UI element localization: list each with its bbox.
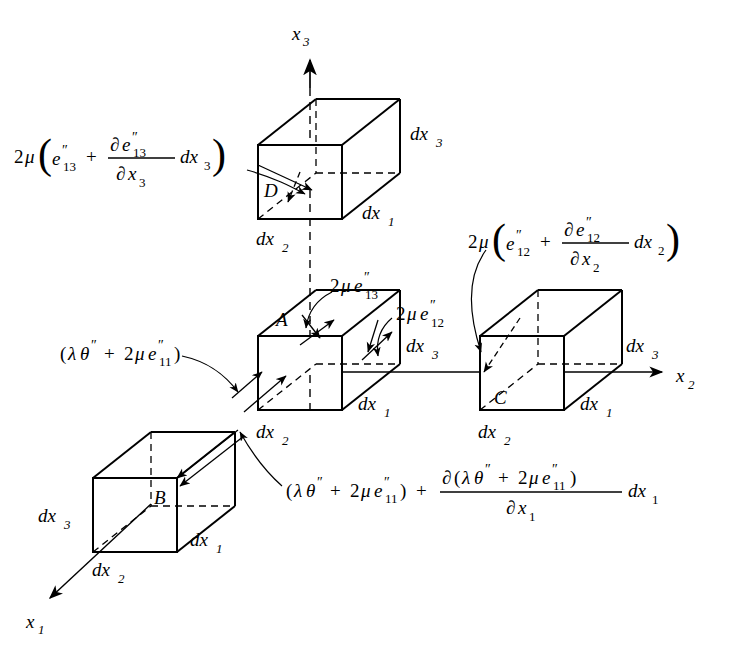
- f1-num-d: ∂: [110, 134, 119, 155]
- f1-num-primes: ″: [132, 130, 138, 145]
- cube-D-edge-dx3-base: dx: [410, 123, 429, 144]
- x1-axis-label-base: x: [25, 611, 35, 632]
- cube-D-edge-dx2-base: dx: [256, 228, 275, 249]
- f1-num-base: e: [122, 134, 130, 155]
- cube-B-edge-dx1-base: dx: [190, 529, 209, 550]
- f6-plus1: +: [330, 480, 341, 501]
- f5-open: (: [60, 343, 66, 365]
- f3-mu: μ: [340, 275, 351, 296]
- cube-B-edge-dx1-sub: 1: [216, 541, 223, 556]
- cube-B-edge-dx3-base: dx: [38, 505, 57, 526]
- f2-num-base: e: [576, 219, 584, 240]
- cube-C-edge-dx3-base: dx: [626, 335, 645, 356]
- f6-lambda: λ: [293, 480, 302, 501]
- formula-shear-12: 2 μ e ″ 12: [396, 298, 444, 330]
- cube-D: [258, 99, 400, 219]
- cube-A-letter: A: [274, 309, 288, 330]
- f1-den-sub: 3: [139, 175, 146, 190]
- cube-C-letter: C: [494, 387, 507, 408]
- f6-num-coef: 2: [518, 467, 528, 488]
- formula-normal-stress: ( λ θ ″ + 2 μ e ″ 11 ): [60, 338, 180, 369]
- f2-e-base: e: [506, 233, 514, 254]
- f1-e-primes: ″: [62, 143, 68, 158]
- f4-e-base: e: [420, 303, 428, 324]
- f2-plus: +: [540, 231, 551, 252]
- f2-den-base: x: [581, 248, 591, 269]
- f6-num-theta-primes: ″: [485, 462, 491, 477]
- f6-num-d: ∂: [442, 467, 451, 488]
- f6-den-d: ∂: [506, 497, 515, 518]
- leader-normal-to-A: [182, 356, 238, 392]
- f2-tail-base: dx: [634, 231, 653, 252]
- f6-num-e-sub: 11: [553, 478, 566, 493]
- f6-den-sub: 1: [529, 509, 536, 524]
- f5-coef: 2: [124, 343, 134, 364]
- cube-D-edge-dx1-base: dx: [362, 202, 381, 223]
- x2-axis-label-sub: 2: [688, 377, 695, 392]
- f5-mu: μ: [134, 343, 145, 364]
- x3-axis-label-sub: 3: [302, 34, 310, 49]
- f3-coef: 2: [330, 275, 340, 296]
- f3-e-primes: ″: [364, 270, 370, 285]
- f6-num-mu: μ: [528, 467, 539, 488]
- cube-D-edge-dx3-sub: 3: [435, 135, 443, 150]
- f6-e-primes1: ″: [384, 475, 390, 490]
- f2-tail-sub: 2: [658, 243, 665, 258]
- f1-e-sub: 13: [63, 159, 76, 174]
- cube-C-stress-arrows: [484, 318, 520, 372]
- f2-num-sub: 12: [587, 230, 600, 245]
- f6-num-e: e: [542, 467, 550, 488]
- f6-open: (: [286, 480, 292, 502]
- f6-mu1: μ: [360, 480, 371, 501]
- f6-close: ): [400, 480, 406, 502]
- f6-num-open: (: [454, 467, 460, 489]
- cube-C-edge-dx3-sub: 3: [651, 347, 659, 362]
- f1-plus: +: [86, 146, 97, 167]
- cube-B-stress-arrows: [177, 430, 244, 486]
- cube-C-edge-dx2-sub: 2: [504, 433, 511, 448]
- f5-lambda: λ: [67, 343, 76, 364]
- diagram-canvas: x 3 x 2 x 1 D dx 3 dx 1 dx: [0, 0, 739, 652]
- f6-e-sub1: 11: [385, 491, 398, 506]
- x3-axis-label-base: x: [291, 23, 301, 44]
- cube-B-edge-dx2-base: dx: [92, 559, 111, 580]
- f6-num-lambda: λ: [461, 467, 470, 488]
- f3-e-sub: 13: [365, 287, 378, 302]
- f4-e-primes: ″: [430, 298, 436, 313]
- cube-A-edge-dx3-base: dx: [406, 335, 425, 356]
- f6-tail-base: dx: [628, 480, 647, 501]
- f1-tail-sub: 3: [204, 158, 211, 173]
- f2-mu: μ: [478, 231, 489, 252]
- f1-den-base: x: [127, 163, 137, 184]
- f2-e-sub: 12: [517, 244, 530, 259]
- f5-e-sub: 11: [159, 354, 172, 369]
- f5-e-base: e: [148, 343, 156, 364]
- f5-e-primes: ″: [158, 338, 164, 353]
- f5-close: ): [174, 343, 180, 365]
- cube-C-edge-dx1-base: dx: [580, 393, 599, 414]
- f6-den-base: x: [517, 497, 527, 518]
- formula-shear-13: 2 μ e ″ 13: [330, 270, 378, 302]
- svg-text:2: 2: [14, 146, 24, 167]
- formula-normal-stress-gradient: ( λ θ ″ + 2 μ e ″ 11 ) + ∂ ( λ θ ″ + 2 μ…: [286, 462, 659, 524]
- f6-e-base1: e: [374, 480, 382, 501]
- cube-C-labels: C dx 3 dx 1 dx 2: [478, 335, 659, 448]
- f1-e-base: e: [52, 148, 60, 169]
- cube-D-edge-dx2-sub: 2: [282, 240, 289, 255]
- cube-A: [258, 290, 400, 410]
- f6-num-plus: +: [498, 467, 509, 488]
- f1-num-sub: 13: [133, 145, 146, 160]
- cube-B-edge-dx2-sub: 2: [118, 571, 125, 586]
- f6-num-e-primes: ″: [552, 462, 558, 477]
- f1-coef: 2: [14, 146, 24, 167]
- cube-A-edge-dx3-sub: 3: [431, 347, 439, 362]
- f2-num-primes: ″: [586, 215, 592, 230]
- cube-B-edge-dx3-sub: 3: [63, 517, 71, 532]
- f6-num-close: ): [570, 467, 576, 489]
- f3-e-base: e: [354, 275, 362, 296]
- f1-den-d: ∂: [116, 163, 125, 184]
- f4-mu: μ: [406, 303, 417, 324]
- f6-num-theta: θ: [474, 467, 483, 488]
- cube-D-letter: D: [263, 180, 278, 201]
- f4-e-sub: 12: [431, 315, 444, 330]
